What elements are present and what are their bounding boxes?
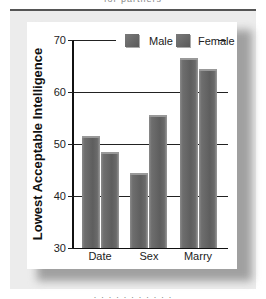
x-axis-line [72,248,228,250]
bar-date-female [101,152,119,248]
bar-sex-male [130,173,148,248]
y-tick-label: 60 [42,86,66,98]
legend-label-male: Male [149,35,173,47]
y-tick-mark [68,144,73,145]
gridline [72,40,116,41]
y-tick-mark [68,248,73,249]
legend-label-female: Female [198,35,235,47]
x-tick-label-date: Date [75,250,125,262]
bar-date-male [82,136,100,248]
x-tick-label-marry: Marry [173,250,223,262]
y-tick-mark [68,196,73,197]
right-tick-mark [218,144,226,145]
right-tick-mark [218,92,226,93]
legend-swatch-male [125,34,139,47]
y-tick-label: 30 [42,242,66,254]
y-tick-label: 70 [42,34,66,46]
y-tick-label: 40 [42,190,66,202]
y-tick-label: 50 [42,138,66,150]
right-tick-mark [218,196,226,197]
bar-marry-male [180,58,198,248]
bar-marry-female [199,69,217,248]
bar-sex-female [149,115,167,248]
cut-caption-top: for partners [0,0,266,4]
legend-swatch-female [176,34,190,47]
y-tick-mark [68,40,73,41]
y-tick-mark [68,92,73,93]
x-tick-label-sex: Sex [124,250,174,262]
cut-caption-bottom: · · · · · · · · · · · [0,292,266,299]
